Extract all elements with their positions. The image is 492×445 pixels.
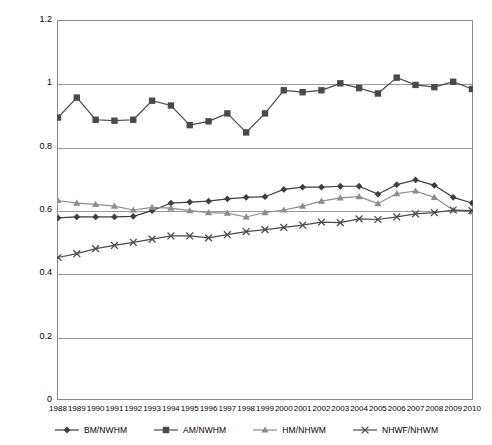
data-point-square	[57, 114, 61, 120]
data-point-square	[431, 84, 437, 90]
legend-item-am-nwhm[interactable]: AM/NWHM	[153, 425, 226, 435]
chart-legend: BM/NWHMAM/NWHMHM/NHWMNHWF/NHWM	[0, 421, 492, 439]
data-point-square	[299, 89, 305, 95]
data-point-diamond	[337, 183, 344, 190]
y-axis-tick-label: 0.4	[0, 268, 52, 277]
data-point-diamond	[111, 214, 118, 221]
data-point-diamond	[318, 184, 325, 191]
legend-item-bm-nwhm[interactable]: BM/NWHM	[54, 425, 127, 435]
y-axis-tick-label: 1.2	[0, 15, 52, 24]
data-point-diamond	[130, 213, 137, 220]
legend-marker-triangle-icon	[252, 425, 278, 435]
data-point-square	[224, 110, 230, 116]
data-point-triangle	[355, 193, 362, 199]
data-point-square	[92, 117, 98, 123]
legend-label: BM/NWHM	[84, 425, 127, 435]
y-axis-tick-label: 0	[0, 395, 52, 404]
x-axis-tick-label: 2010	[457, 404, 487, 414]
data-point-diamond	[262, 193, 269, 200]
data-point-diamond	[431, 182, 438, 189]
data-point-diamond	[57, 215, 61, 222]
data-point-triangle	[57, 197, 62, 203]
data-point-triangle	[412, 187, 419, 193]
data-point-diamond	[92, 214, 99, 221]
y-axis-tick-label: 1	[0, 78, 52, 87]
data-point-square	[168, 102, 174, 108]
y-axis-tick-label: 0.2	[0, 332, 52, 341]
y-axis-tick-label: 0.6	[0, 205, 52, 214]
data-point-square	[450, 79, 456, 85]
data-point-square	[262, 110, 268, 116]
data-point-square	[111, 118, 117, 124]
legend-marker-square-icon	[153, 425, 179, 435]
data-point-diamond	[450, 194, 457, 201]
data-point-square	[163, 427, 169, 433]
data-point-diamond	[243, 194, 250, 201]
line-chart: 00.20.40.60.811.2 1988198919901991199219…	[0, 0, 492, 445]
data-point-diamond	[412, 177, 419, 184]
data-point-diamond	[469, 200, 473, 207]
data-point-square	[394, 74, 400, 80]
series-line	[58, 78, 472, 133]
y-axis-tick-label: 0.8	[0, 142, 52, 151]
data-point-diamond	[205, 198, 212, 205]
data-point-diamond	[186, 199, 193, 206]
data-point-square	[412, 82, 418, 88]
data-point-square	[243, 129, 249, 135]
legend-label: AM/NWHM	[183, 425, 226, 435]
data-point-square	[187, 122, 193, 128]
series-layer	[57, 20, 473, 400]
data-point-square	[281, 87, 287, 93]
data-point-square	[356, 85, 362, 91]
data-point-diamond	[356, 183, 363, 190]
data-point-diamond	[299, 184, 306, 191]
data-point-diamond	[375, 191, 382, 198]
data-point-diamond	[280, 186, 287, 193]
legend-item-hm-nhwm[interactable]: HM/NHWM	[252, 425, 326, 435]
data-point-square	[469, 86, 473, 92]
data-point-square	[74, 94, 80, 100]
legend-item-nhwf-nhwm[interactable]: NHWF/NHWM	[352, 425, 438, 435]
legend-label: NHWF/NHWM	[382, 425, 438, 435]
data-point-diamond	[73, 214, 80, 221]
data-point-square	[205, 118, 211, 124]
legend-marker-diamond-icon	[54, 425, 80, 435]
data-point-diamond	[393, 181, 400, 188]
data-point-square	[337, 80, 343, 86]
data-point-diamond	[224, 196, 231, 203]
x-axis: 1988198919901991199219931994199519961997…	[57, 404, 473, 420]
data-point-square	[149, 98, 155, 104]
legend-label: HM/NHWM	[282, 425, 326, 435]
data-point-square	[318, 87, 324, 93]
data-point-diamond	[63, 427, 70, 434]
legend-marker-x-icon	[352, 425, 378, 435]
data-point-square	[375, 90, 381, 96]
series-am-nwhm	[57, 74, 473, 135]
data-point-square	[130, 117, 136, 123]
